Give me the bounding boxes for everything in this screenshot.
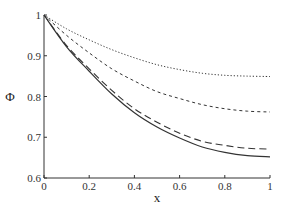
x-tick-label: 0.6 xyxy=(173,180,187,192)
x-tick-label: 0.8 xyxy=(218,180,232,192)
series-group xyxy=(44,15,270,157)
tick-labels: 00.20.40.60.810.60.70.80.91 xyxy=(27,9,273,192)
line-chart: 00.20.40.60.810.60.70.80.91 x Φ xyxy=(0,0,287,210)
y-tick-label: 0.7 xyxy=(27,131,41,143)
series-solid-line xyxy=(44,15,270,157)
y-tick-label: 0.6 xyxy=(27,172,41,184)
x-tick-label: 1 xyxy=(267,180,273,192)
x-tick-label: 0.4 xyxy=(128,180,142,192)
x-tick-label: 0 xyxy=(41,180,47,192)
series-short-dashed-line xyxy=(44,15,270,112)
axes xyxy=(44,15,270,178)
y-tick-label: 0.8 xyxy=(27,91,41,103)
y-axis-label: Φ xyxy=(5,89,15,104)
x-axis-label: x xyxy=(154,190,161,205)
y-tick-label: 1 xyxy=(36,9,42,21)
x-tick-label: 0.2 xyxy=(82,180,96,192)
series-dotted-line xyxy=(44,15,270,77)
y-tick-label: 0.9 xyxy=(27,50,41,62)
